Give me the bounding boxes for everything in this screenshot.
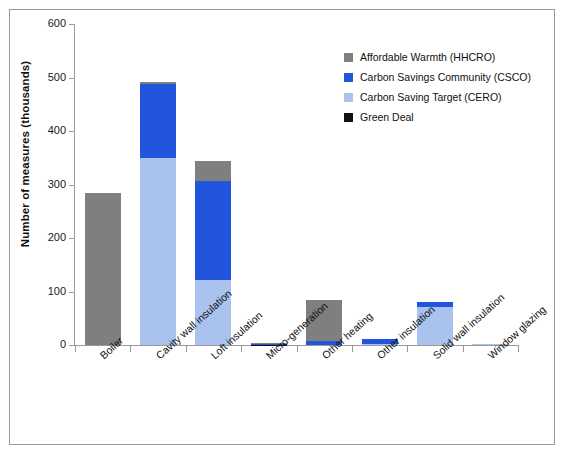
x-tick-mark: [407, 346, 408, 352]
bar-segment: [195, 181, 231, 280]
y-tick-label: 600: [26, 18, 66, 29]
x-tick-mark: [352, 346, 353, 352]
x-tick-mark: [130, 346, 131, 352]
legend-swatch-icon: [344, 113, 353, 122]
bar-boiler[interactable]: [85, 193, 121, 345]
legend-swatch-icon: [344, 73, 353, 82]
chart-legend: Affordable Warmth (HHCRO)Carbon Savings …: [344, 48, 554, 128]
legend-swatch-icon: [344, 53, 353, 62]
bar-segment: [140, 84, 176, 157]
legend-item[interactable]: Carbon Saving Target (CERO): [344, 88, 554, 106]
x-tick-mark: [463, 346, 464, 352]
x-tick-mark: [241, 346, 242, 352]
bar-segment: [85, 193, 121, 345]
chart-figure: Number of measures (thousands) 010020030…: [0, 0, 564, 454]
y-tick-label: 400: [26, 125, 66, 136]
x-tick-mark: [75, 346, 76, 352]
legend-label: Green Deal: [360, 111, 414, 123]
legend-label: Affordable Warmth (HHCRO): [360, 51, 495, 63]
y-tick-label: 0: [26, 339, 66, 350]
bar-segment: [195, 161, 231, 181]
y-tick-label: 100: [26, 286, 66, 297]
legend-item[interactable]: Affordable Warmth (HHCRO): [344, 48, 554, 66]
y-tick-label: 200: [26, 232, 66, 243]
legend-swatch-icon: [344, 93, 353, 102]
y-tick-label: 500: [26, 72, 66, 83]
x-tick-mark: [518, 346, 519, 352]
x-tick-mark: [186, 346, 187, 352]
y-tick-label: 300: [26, 179, 66, 190]
x-tick-mark: [297, 346, 298, 352]
bar-cavity-wall-insulation[interactable]: [140, 82, 176, 345]
legend-label: Carbon Savings Community (CSCO): [360, 71, 531, 83]
legend-item[interactable]: Carbon Savings Community (CSCO): [344, 68, 554, 86]
y-axis-title: Number of measures (thousands): [19, 24, 31, 284]
legend-item[interactable]: Green Deal: [344, 108, 554, 126]
legend-label: Carbon Saving Target (CERO): [360, 91, 502, 103]
bar-segment: [140, 158, 176, 345]
